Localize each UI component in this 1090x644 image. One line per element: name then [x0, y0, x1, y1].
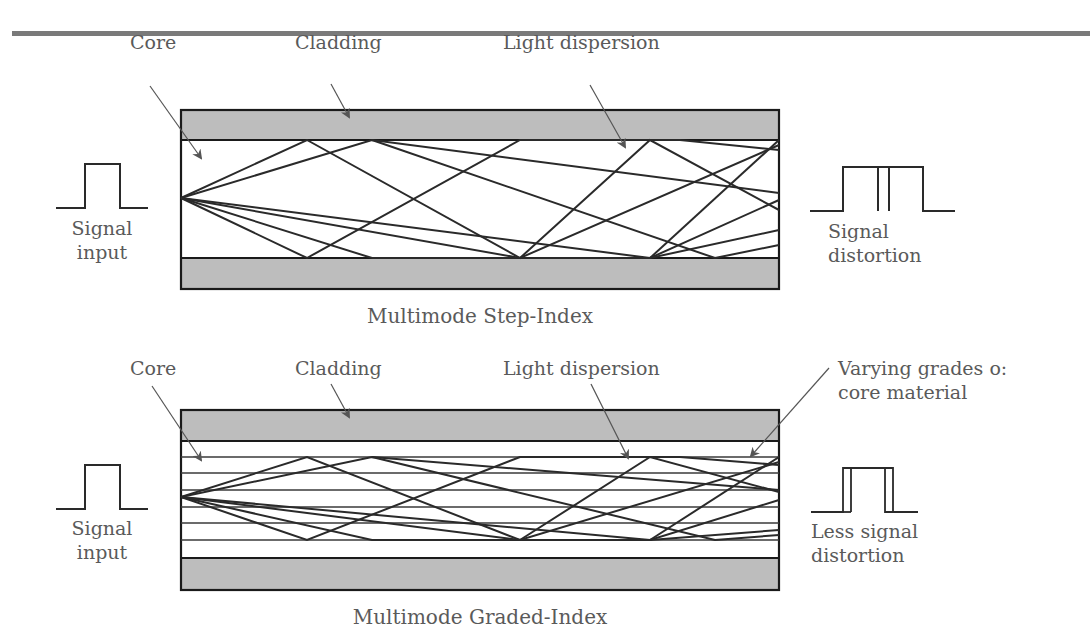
signal-distortion-pulse-icon [810, 167, 955, 211]
cladding-label: Cladding [295, 356, 382, 380]
step-index-caption: Multimode Step-Index [330, 304, 630, 328]
signal-input-label: Signal input [56, 216, 148, 264]
less-signal-distortion-label: Less signal distortion [811, 519, 918, 567]
cladding-bottom [181, 558, 779, 590]
varying-grades-label: Varying grades o: core material [838, 356, 1007, 404]
signal-distortion-line1: Signal [828, 219, 922, 243]
signal-input-pulse-icon [56, 164, 148, 208]
less-signal-distortion-pulse-icon [811, 468, 918, 512]
less-signal-distortion-line2: distortion [811, 543, 918, 567]
signal-distortion-line2: distortion [828, 243, 922, 267]
varying-grades-line1: Varying grades o: [838, 356, 1007, 380]
signal-input-line2: input [56, 540, 148, 564]
light-dispersion-label: Light dispersion [503, 356, 660, 380]
signal-input-line1: Signal [56, 516, 148, 540]
less-signal-distortion-line1: Less signal [811, 519, 918, 543]
graded-index-fiber [181, 410, 779, 590]
cladding-label: Cladding [295, 30, 382, 54]
cladding-bottom [181, 258, 779, 289]
signal-input-line2: input [56, 240, 148, 264]
fiber-optic-multimode-diagram: Core Cladding Light dispersion Signal in… [0, 0, 1090, 644]
core-label: Core [130, 356, 176, 380]
signal-input-label: Signal input [56, 516, 148, 564]
step-index-fiber [181, 110, 779, 289]
light-dispersion-label: Light dispersion [503, 30, 660, 54]
varying-grades-line2: core material [838, 380, 1007, 404]
cladding-top [181, 110, 779, 140]
graded-index-caption: Multimode Graded-Index [320, 605, 640, 629]
signal-distortion-label: Signal distortion [828, 219, 922, 267]
signal-input-pulse-icon [56, 465, 148, 509]
cladding-top [181, 410, 779, 441]
core-label: Core [130, 30, 176, 54]
signal-input-line1: Signal [56, 216, 148, 240]
